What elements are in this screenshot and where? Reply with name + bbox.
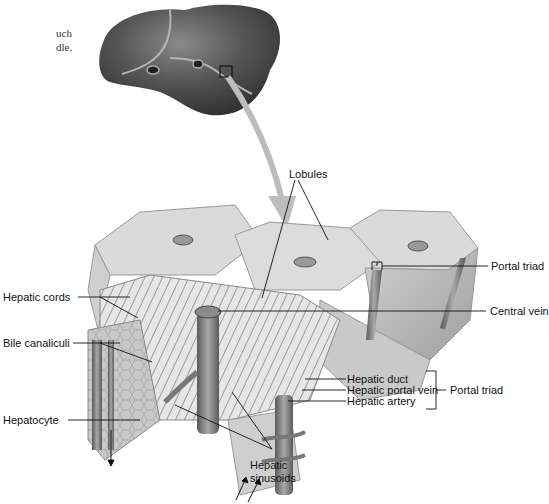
label-bile-canaliculi: Bile canaliculi bbox=[3, 337, 70, 349]
central-vein-vessel bbox=[197, 312, 219, 434]
label-portal-triad-top: Portal triad bbox=[491, 260, 544, 272]
label-lobules: Lobules bbox=[289, 168, 328, 180]
label-hepatic-sinusoids-1: Hepatic bbox=[250, 459, 287, 471]
label-hepatic-sinusoids-2: sinusoids bbox=[250, 472, 296, 484]
label-hepatic-cords: Hepatic cords bbox=[3, 291, 70, 303]
lobule-top-left bbox=[95, 205, 260, 275]
liver-icon bbox=[99, 5, 280, 116]
cut-lobule-section bbox=[88, 275, 340, 495]
label-hepatocyte: Hepatocyte bbox=[3, 414, 59, 426]
label-hepatic-artery: Hepatic artery bbox=[347, 395, 415, 407]
label-portal-triad-group: Portal triad bbox=[450, 384, 503, 396]
label-central-vein: Central vein bbox=[490, 305, 549, 317]
